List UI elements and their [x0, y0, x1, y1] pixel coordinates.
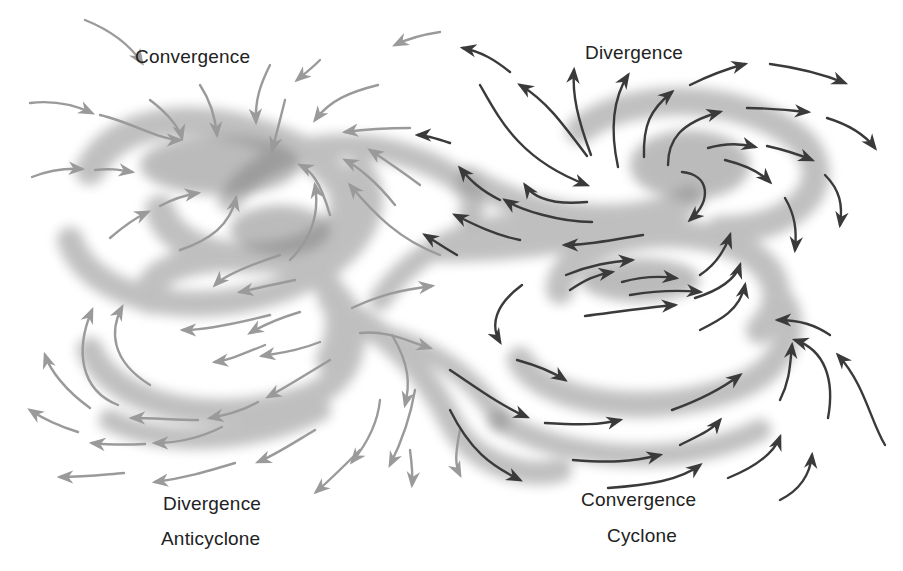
upper-convergence-label: Convergence — [135, 46, 250, 68]
anticyclone-label: Anticyclone — [161, 528, 260, 550]
upper-divergence-label: Divergence — [585, 42, 683, 64]
surface-convergence-label: Convergence — [581, 489, 696, 511]
cyclone-label: Cyclone — [607, 525, 677, 547]
circulation-diagram — [0, 0, 903, 571]
surface-divergence-label: Divergence — [163, 493, 261, 515]
